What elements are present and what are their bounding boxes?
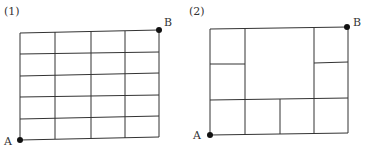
- diagram-canvas: [0, 0, 367, 155]
- figure-2-grid: [210, 27, 348, 135]
- figure-2-point-b: [344, 24, 350, 30]
- figure-2-point-a: [207, 132, 213, 138]
- figure-1-grid: [20, 30, 159, 140]
- figure-1-point-a: [17, 137, 23, 143]
- figure-1-point-b: [156, 27, 162, 33]
